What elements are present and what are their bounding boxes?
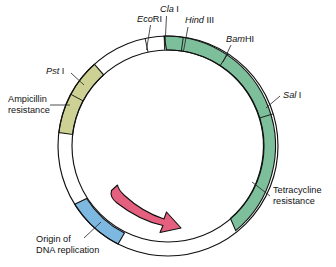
label-hindiii-italic: Hind	[185, 15, 205, 25]
label-sali-italic: Sal	[283, 90, 297, 100]
label-psti-roman: I	[59, 66, 64, 76]
label-clai-italic: Cla	[160, 4, 174, 14]
label-ecori: EcoRI	[137, 14, 162, 24]
label-ampicillin-line1: Ampicillin	[8, 94, 47, 104]
label-psti-italic: Pst	[46, 66, 60, 76]
label-ampicillin-line2: resistance	[8, 105, 50, 115]
label-ecori-roman: RI	[153, 14, 162, 24]
label-bamhi: BamHI	[226, 34, 254, 44]
plasmid-diagram: EcoRI Cla I Hind III BamHI Sal I Pst I T…	[0, 0, 336, 267]
label-sali-roman: I	[296, 90, 301, 100]
label-origin-line2: DNA replication	[36, 245, 99, 255]
label-hindiii: Hind III	[185, 15, 214, 25]
label-bamhi-italic: Bam	[226, 34, 245, 44]
label-sali: Sal I	[283, 90, 301, 100]
label-tetracycline-line1: Tetracycline	[273, 185, 322, 195]
label-tetracycline-line2: resistance	[273, 196, 315, 206]
plasmid-svg-canvas: EcoRI Cla I Hind III BamHI Sal I Pst I T…	[0, 0, 336, 267]
label-clai-roman: I	[174, 4, 179, 14]
label-origin-line1: Origin of	[36, 234, 71, 244]
label-ecori-italic: Eco	[137, 14, 153, 24]
label-hindiii-roman: III	[204, 15, 214, 25]
label-clai: Cla I	[160, 4, 179, 14]
label-ampicillin-resistance: Ampicillin resistance	[8, 94, 50, 115]
label-psti: Pst I	[46, 66, 64, 76]
label-bamhi-roman: HI	[245, 34, 254, 44]
